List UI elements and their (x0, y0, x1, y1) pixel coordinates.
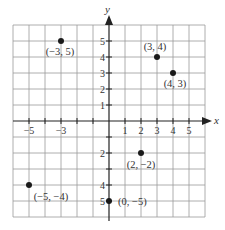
point-label: (2, −2) (127, 159, 156, 171)
x-tick-label: 3 (155, 125, 160, 136)
coordinate-plane: x y −5−31234554321245 (−3, 5)(3, 4)(4, 3… (0, 0, 225, 230)
x-tick-label: −3 (56, 125, 67, 136)
point-label: (−5, −4) (34, 191, 69, 203)
x-tick-label: 5 (187, 125, 192, 136)
data-point (154, 54, 160, 60)
y-tick-label: 2 (100, 84, 105, 95)
data-points: (−3, 5)(3, 4)(4, 3)(2, −2)(−5, −4)(0, −5… (26, 38, 187, 208)
data-point (170, 70, 176, 76)
x-axis-arrow-icon (202, 117, 212, 125)
y-tick-label: 2 (100, 148, 105, 159)
y-tick-label: 5 (100, 36, 105, 47)
data-point (106, 198, 112, 204)
y-axis-label: y (104, 3, 110, 15)
x-tick-label: −5 (24, 125, 35, 136)
point-label: (0, −5) (118, 196, 147, 208)
data-point (138, 150, 144, 156)
x-tick-label: 1 (123, 125, 128, 136)
y-axis-arrow-icon (105, 15, 113, 25)
axes: x y (13, 3, 219, 221)
y-tick-label: 1 (100, 100, 105, 111)
y-tick-label: 4 (100, 52, 105, 63)
y-tick-label: 4 (100, 180, 105, 191)
x-axis-label: x (213, 114, 219, 126)
x-tick-label: 2 (139, 125, 144, 136)
y-tick-label: 5 (100, 196, 105, 207)
point-label: (4, 3) (164, 78, 187, 90)
point-label: (−3, 5) (46, 46, 75, 58)
point-label: (3, 4) (144, 41, 167, 53)
y-tick-label: 3 (100, 68, 105, 79)
data-point (58, 38, 64, 44)
x-tick-label: 4 (171, 125, 176, 136)
data-point (26, 182, 32, 188)
